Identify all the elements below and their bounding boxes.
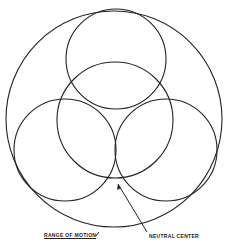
neutral-center-arrow xyxy=(117,184,147,232)
right-circle xyxy=(115,99,217,201)
neutral-center-label: Neutral center xyxy=(149,233,199,239)
range-of-motion-diagram xyxy=(0,0,227,246)
top-circle xyxy=(66,9,166,109)
range-of-motion-leader xyxy=(96,232,99,236)
range-of-motion-label: Range of motion xyxy=(44,232,96,239)
